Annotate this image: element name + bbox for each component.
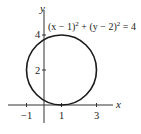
circle-graph: x y −1 1 3 2 4 (x − 1)2 + (y − 2)2 = 4 [0,0,141,134]
x-axis-label: x [115,98,121,110]
x-tick-label-1: 1 [59,110,64,121]
equation-label: (x − 1)2 + (y − 2)2 = 4 [48,20,136,33]
y-tick-label-2: 2 [35,65,40,76]
y-tick-label-4: 4 [35,29,41,40]
x-tick-label-3: 3 [94,110,99,121]
y-axis-label: y [39,2,45,14]
x-tick-label-neg1: −1 [21,110,32,121]
